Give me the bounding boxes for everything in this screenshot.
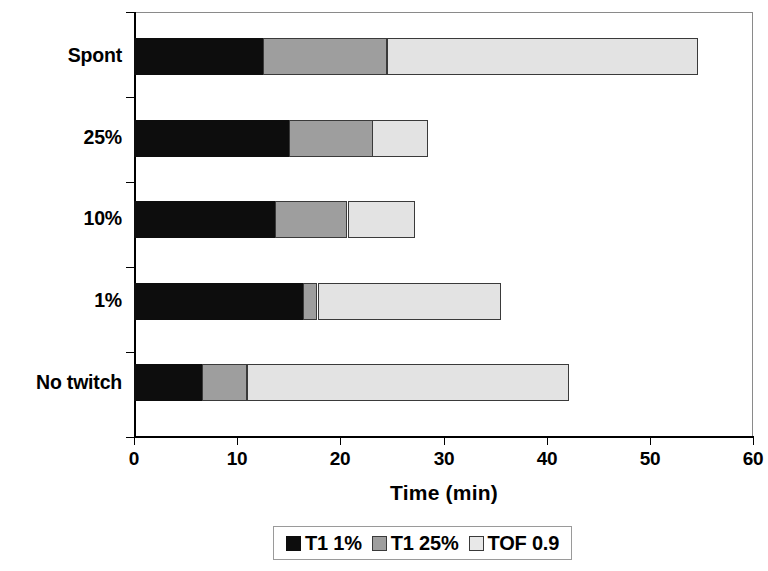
bar-segment-t1-1: [134, 120, 289, 157]
x-axis-tick-label: 30: [414, 448, 474, 470]
y-axis-tick: [126, 97, 135, 98]
bar-segment-tof-0-9: [348, 201, 415, 238]
bar-segment-t1-1: [134, 364, 202, 401]
bar-segment-t1-1: [134, 283, 303, 320]
bar-segment-t1-25: [263, 38, 387, 75]
bar-row: [0, 120, 759, 157]
light-gray-swatch-icon: [469, 536, 484, 551]
x-axis-tick-label: 50: [620, 448, 680, 470]
legend-label-tof-09: TOF 0.9: [488, 532, 560, 555]
bar-segment-t1-25: [202, 364, 247, 401]
bar-segment-t1-25: [275, 201, 347, 238]
x-axis-tick: [237, 437, 238, 445]
x-axis-tick: [753, 437, 754, 445]
legend-entry-t1-25: T1 25%: [372, 532, 459, 555]
legend-label-t1-25: T1 25%: [391, 532, 459, 555]
x-axis-tick: [444, 437, 445, 445]
bar-segment-t1-25: [303, 283, 317, 320]
gray-swatch-icon: [372, 536, 387, 551]
bar-row: [0, 364, 759, 401]
bar-segment-t1-1: [134, 38, 263, 75]
legend-label-t1-1: T1 1%: [305, 532, 362, 555]
x-axis-tick-label: 10: [207, 448, 267, 470]
x-axis-tick: [547, 437, 548, 445]
chart-legend: T1 1% T1 25% TOF 0.9: [273, 526, 572, 560]
legend-entry-tof-09: TOF 0.9: [469, 532, 560, 555]
x-axis-tick-label: 0: [104, 448, 164, 470]
x-axis-tick: [134, 437, 135, 445]
x-axis-tick: [340, 437, 341, 445]
legend-entry-t1-1: T1 1%: [286, 532, 362, 555]
bar-segment-tof-0-9: [387, 38, 698, 75]
bar-row: [0, 38, 759, 75]
bar-segment-t1-1: [134, 201, 275, 238]
y-axis-tick: [126, 352, 135, 353]
bar-segment-tof-0-9: [372, 120, 428, 157]
x-axis-title: Time (min): [134, 481, 754, 505]
y-axis-tick: [126, 182, 135, 183]
bar-segment-t1-25: [289, 120, 373, 157]
x-axis-tick: [650, 437, 651, 445]
bar-segment-tof-0-9: [318, 283, 501, 320]
bar-segment-tof-0-9: [247, 364, 569, 401]
y-axis-tick: [126, 12, 135, 13]
x-axis-tick-label: 40: [517, 448, 577, 470]
bar-row: [0, 283, 759, 320]
y-axis-tick: [126, 267, 135, 268]
x-axis-tick-label: 20: [310, 448, 370, 470]
bar-row: [0, 201, 759, 238]
black-swatch-icon: [286, 536, 301, 551]
x-axis-tick-label: 60: [723, 448, 768, 470]
